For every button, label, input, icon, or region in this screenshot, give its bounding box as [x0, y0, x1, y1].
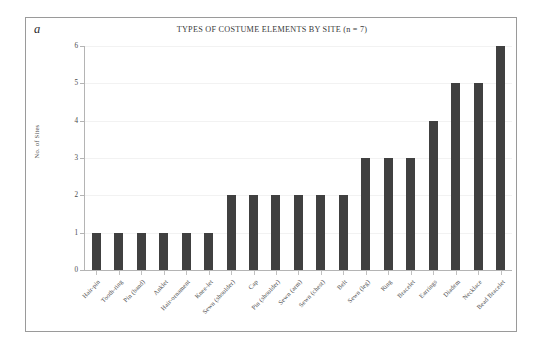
- x-label-slot: Sewn (shoulder): [220, 277, 242, 347]
- x-label-slot: Sewn (leg): [355, 277, 377, 347]
- bar-slot: [175, 46, 197, 270]
- x-label-slot: Necklace: [467, 277, 489, 347]
- x-label-slot: Bead Bracelet: [489, 277, 511, 347]
- x-tick-slot: [175, 271, 197, 275]
- x-tick-slot: [220, 271, 242, 275]
- bar[interactable]: [406, 158, 415, 270]
- bar-slot: [287, 46, 309, 270]
- x-label-slot: Sewn (chest): [310, 277, 332, 347]
- bar[interactable]: [92, 233, 101, 270]
- x-label-slot: Pin (shoulder): [265, 277, 287, 347]
- bar-slot: [85, 46, 107, 270]
- y-tick-label: 0: [57, 266, 78, 274]
- y-tick-label: 3: [57, 154, 78, 162]
- x-tick-mark: [298, 271, 299, 275]
- x-axis-category-label: Belt: [336, 278, 349, 291]
- bar-slot: [400, 46, 422, 270]
- bar[interactable]: [361, 158, 370, 270]
- x-tick-mark: [388, 271, 389, 275]
- bar-slot: [107, 46, 129, 270]
- bar[interactable]: [137, 233, 146, 270]
- x-tick-slot: [287, 271, 309, 275]
- x-tick-mark: [366, 271, 367, 275]
- x-label-slot: Belt: [332, 277, 354, 347]
- x-label-slot: Diadem: [445, 277, 467, 347]
- bar-slot: [422, 46, 444, 270]
- x-tick-mark: [321, 271, 322, 275]
- bar[interactable]: [474, 83, 483, 270]
- y-tick-label: 6: [57, 42, 78, 50]
- x-tick-slot: [332, 271, 354, 275]
- x-tick-mark: [141, 271, 142, 275]
- x-tick-slot: [377, 271, 399, 275]
- x-tick-mark: [209, 271, 210, 275]
- bar[interactable]: [294, 195, 303, 270]
- x-label-slot: Cap: [242, 277, 264, 347]
- x-label-slot: Hair-pin: [85, 277, 107, 347]
- bar-slot: [467, 46, 489, 270]
- x-tick-slot: [242, 271, 264, 275]
- x-tick-slot: [152, 271, 174, 275]
- x-tick-mark: [231, 271, 232, 275]
- bar-slot: [355, 46, 377, 270]
- y-axis-title: No. of Sites: [33, 97, 40, 187]
- bar-series: [85, 46, 512, 270]
- x-label-slot: Earrings: [422, 277, 444, 347]
- x-tick-slot: [130, 271, 152, 275]
- y-tick-label: 1: [57, 229, 78, 237]
- bar[interactable]: [451, 83, 460, 270]
- x-axis-ticks: [85, 271, 512, 275]
- bar-slot: [489, 46, 511, 270]
- chart-title: TYPES OF COSTUME ELEMENTS BY SITE (n = 7…: [26, 25, 518, 34]
- bar[interactable]: [159, 233, 168, 270]
- x-label-slot: Tooth-ring: [107, 277, 129, 347]
- x-label-slot: Ring: [377, 277, 399, 347]
- bar[interactable]: [204, 233, 213, 270]
- bar[interactable]: [249, 195, 258, 270]
- y-tick-label: 2: [57, 191, 78, 199]
- y-tick-label: 5: [57, 79, 78, 87]
- x-tick-mark: [501, 271, 502, 275]
- bar[interactable]: [182, 233, 191, 270]
- plot-area: No. of Sites 0123456 Hair-pinTooth-ringP…: [57, 46, 512, 278]
- bar-slot: [310, 46, 332, 270]
- figure-frame: a TYPES OF COSTUME ELEMENTS BY SITE (n =…: [25, 17, 517, 332]
- bar-slot: [377, 46, 399, 270]
- x-label-slot: Bracelet: [400, 277, 422, 347]
- x-tick-slot: [265, 271, 287, 275]
- x-tick-mark: [186, 271, 187, 275]
- bar-slot: [332, 46, 354, 270]
- x-axis-category-label: Anklet: [151, 278, 169, 296]
- x-tick-mark: [96, 271, 97, 275]
- x-label-slot: Pin (band): [130, 277, 152, 347]
- bar[interactable]: [227, 195, 236, 270]
- x-tick-mark: [411, 271, 412, 275]
- x-axis-category-label: Cap: [246, 278, 258, 291]
- x-tick-slot: [489, 271, 511, 275]
- bar[interactable]: [429, 121, 438, 270]
- x-axis-category-label: Diadem: [441, 278, 461, 298]
- bar-slot: [197, 46, 219, 270]
- bar[interactable]: [271, 195, 280, 270]
- bar-slot: [220, 46, 242, 270]
- bar[interactable]: [496, 46, 505, 270]
- bar[interactable]: [114, 233, 123, 270]
- bar[interactable]: [384, 158, 393, 270]
- x-tick-mark: [456, 271, 457, 275]
- x-tick-slot: [107, 271, 129, 275]
- x-label-slot: Hair-ornament: [175, 277, 197, 347]
- x-tick-mark: [433, 271, 434, 275]
- x-tick-slot: [445, 271, 467, 275]
- bar-slot: [445, 46, 467, 270]
- bar[interactable]: [339, 195, 348, 270]
- bar-slot: [130, 46, 152, 270]
- x-tick-slot: [467, 271, 489, 275]
- x-tick-slot: [400, 271, 422, 275]
- bar-slot: [242, 46, 264, 270]
- x-tick-mark: [276, 271, 277, 275]
- x-tick-slot: [355, 271, 377, 275]
- x-tick-mark: [254, 271, 255, 275]
- bar[interactable]: [316, 195, 325, 270]
- x-tick-mark: [478, 271, 479, 275]
- x-tick-slot: [422, 271, 444, 275]
